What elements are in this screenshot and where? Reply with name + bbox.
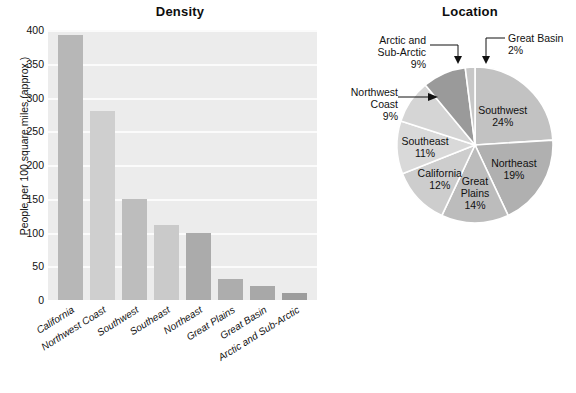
y-tick-150: 150	[2, 193, 44, 205]
bar-southeast	[154, 225, 179, 300]
y-tick-100: 100	[2, 227, 44, 239]
leader-line-arctic	[430, 45, 458, 58]
callout-great-basin-pct: 2%	[508, 44, 576, 56]
bar-slot	[118, 30, 150, 300]
leader-line-great-basin	[486, 38, 505, 58]
callout-arctic-line2: Sub-Arctic	[330, 46, 426, 58]
bar-great-plains	[218, 279, 243, 300]
bar-california	[58, 35, 83, 300]
x-label-slot: Northeast	[183, 300, 215, 393]
bar-chart-title: Density	[60, 4, 300, 19]
callout-northwest-coast: Northwest Coast 9%	[310, 86, 398, 122]
y-tick-300: 300	[2, 92, 44, 104]
y-tick-0: 0	[2, 294, 44, 306]
x-label-slot: Northwest Coast	[86, 300, 118, 393]
x-label-slot: Arctic and Sub-Arctic	[279, 300, 311, 393]
callout-great-basin-line1: Great Basin	[508, 32, 576, 44]
arrow-head-great-basin	[482, 56, 490, 64]
bar-chart-plot-area	[48, 30, 317, 300]
bar-series	[48, 30, 317, 300]
y-tick-250: 250	[2, 125, 44, 137]
y-tick-400: 400	[2, 24, 44, 36]
y-tick-350: 350	[2, 58, 44, 70]
bar-chart-x-labels: CaliforniaNorthwest CoastSouthwestSouthe…	[48, 300, 317, 393]
bar-chart-y-ticks: 400 350 300 250 200 150 100 50 0	[0, 30, 44, 300]
pie-chart-wrap: Southwest24%Northeast19%GreatPlains14%Ca…	[340, 0, 576, 393]
bar-southwest	[122, 199, 147, 300]
bar-slot	[215, 30, 247, 300]
pie-label-great-plains: GreatPlains14%	[461, 175, 490, 211]
location-pie-chart-panel: Location Southwest24%Northeast19%GreatPl…	[340, 0, 576, 393]
y-tick-50: 50	[2, 260, 44, 272]
bar-slot	[150, 30, 182, 300]
bar-slot	[247, 30, 279, 300]
callout-arctic-line1: Arctic and	[330, 34, 426, 46]
bar-slot	[279, 30, 311, 300]
x-label-slot: Southwest	[118, 300, 150, 393]
bar-slot	[183, 30, 215, 300]
callout-northwest-pct: 9%	[310, 110, 398, 122]
x-label-slot: Great Basin	[247, 300, 279, 393]
density-bar-chart-panel: Density People per 100 square miles (app…	[0, 0, 340, 393]
arrow-head-arctic	[454, 56, 462, 64]
callout-northwest-line1: Northwest	[310, 86, 398, 98]
bar-slot	[86, 30, 118, 300]
callout-arctic-sub-arctic: Arctic and Sub-Arctic 9%	[330, 34, 426, 70]
bar-slot	[54, 30, 86, 300]
callout-great-basin: Great Basin 2%	[508, 32, 576, 56]
bar-northwest-coast	[90, 111, 115, 300]
x-label-slot: California	[54, 300, 86, 393]
callout-northwest-line2: Coast	[310, 98, 398, 110]
callout-arctic-pct: 9%	[330, 58, 426, 70]
bar-northeast	[186, 233, 211, 301]
x-label-slot: Southeast	[150, 300, 182, 393]
bar-great-basin	[250, 286, 275, 300]
y-tick-200: 200	[2, 159, 44, 171]
bar-arctic-and-sub-arctic	[282, 293, 307, 300]
